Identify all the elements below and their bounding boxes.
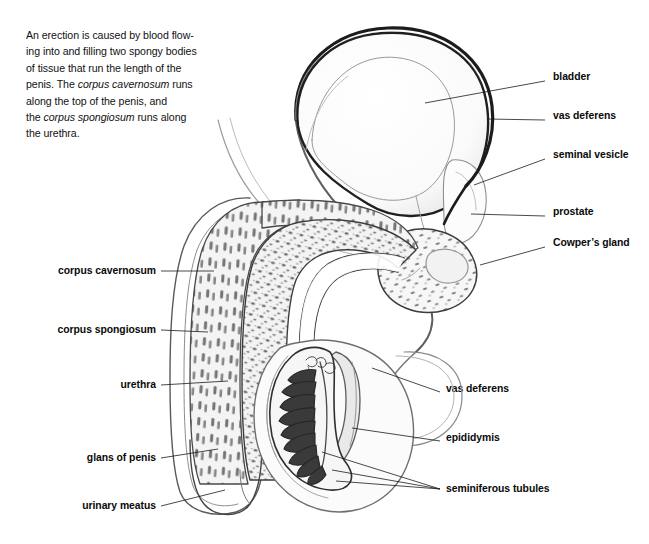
leader-urethra <box>161 381 228 385</box>
leader-bladder <box>425 81 545 103</box>
leader-seminiferous-tubules <box>322 452 440 489</box>
leader-glans-of-penis <box>161 449 218 458</box>
leader-lines-layer <box>0 0 649 544</box>
anatomy-diagram-page: An erection is caused by blood flow- ing… <box>0 0 649 544</box>
leader-vas-deferens-lower <box>372 368 440 392</box>
leader-corpus-spongiosum <box>161 330 208 332</box>
leader-vas-deferens-upper <box>487 119 545 120</box>
leader-epididymis <box>352 428 440 441</box>
leader-cowpers-gland <box>480 247 545 265</box>
leader-urinary-meatus <box>161 490 225 506</box>
leader-seminal-vesicle <box>474 159 545 185</box>
leader-prostate <box>471 214 545 216</box>
